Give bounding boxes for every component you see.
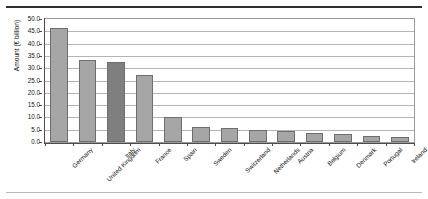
bar-portugal (363, 136, 381, 142)
x-tick-mark (272, 143, 273, 146)
x-label-portugal: Portugal (382, 146, 404, 168)
chart-page: Amount (€ billion) 50.045.040.035.030.02… (0, 0, 428, 199)
x-label-italy: Italy (123, 146, 136, 159)
x-tick-mark (215, 143, 216, 146)
x-label-switzerland: Switzerland (243, 146, 271, 174)
x-label-united-kingdom: United Kingdom (105, 146, 142, 183)
x-tick-mark (357, 143, 358, 146)
bar-belgium (306, 133, 324, 142)
x-label-austria: Austria (296, 146, 315, 165)
y-axis-tick-labels: 50.045.040.035.030.025.020.015.010.05.00… (0, 18, 42, 143)
x-label-france: France (154, 146, 173, 165)
x-tick-mark (329, 143, 330, 146)
y-tick-mark (39, 68, 42, 69)
bar-series (45, 19, 414, 142)
bar-germany (50, 28, 68, 142)
y-tick-mark (39, 105, 42, 106)
y-tick-mark (39, 130, 42, 131)
bar-sweden (192, 127, 210, 142)
x-label-belgium: Belgium (325, 146, 346, 167)
x-tick-mark (414, 143, 415, 146)
x-label-denmark: Denmark (355, 146, 378, 169)
y-tick-mark (39, 142, 42, 143)
y-tick-mark (39, 44, 42, 45)
bar-spain (164, 117, 182, 142)
x-tick-mark (159, 143, 160, 146)
y-tick-mark (39, 56, 42, 57)
x-tick-mark (244, 143, 245, 146)
x-tick-mark (45, 143, 46, 146)
x-tick-mark (102, 143, 103, 146)
bar-switzerland (221, 128, 239, 142)
bar-france (136, 75, 154, 142)
bar-netherlands (249, 130, 267, 142)
x-axis-line (44, 143, 415, 144)
bar-denmark (334, 134, 352, 142)
bar-italy (107, 62, 125, 142)
y-tick-mark (39, 19, 42, 20)
y-axis-line (44, 18, 45, 143)
x-label-netherlands: Netherlands (272, 146, 301, 175)
y-tick-mark (39, 93, 42, 94)
x-label-ireland: Ireland (409, 146, 428, 165)
bar-austria (277, 131, 295, 142)
bar-united-kingdom (79, 60, 97, 142)
x-tick-mark (300, 143, 301, 146)
bar-chart: Amount (€ billion) 50.045.040.035.030.02… (0, 0, 428, 199)
y-tick-mark (39, 81, 42, 82)
x-tick-mark (386, 143, 387, 146)
x-label-sweden: Sweden (212, 146, 233, 167)
x-label-spain: Spain (181, 146, 197, 162)
x-tick-mark (73, 143, 74, 146)
x-tick-mark (130, 143, 131, 146)
y-tick-mark (39, 117, 42, 118)
plot-area (44, 18, 415, 143)
x-label-germany: Germany (71, 146, 94, 169)
x-tick-mark (187, 143, 188, 146)
bar-ireland (391, 137, 409, 142)
y-tick-mark (39, 31, 42, 32)
